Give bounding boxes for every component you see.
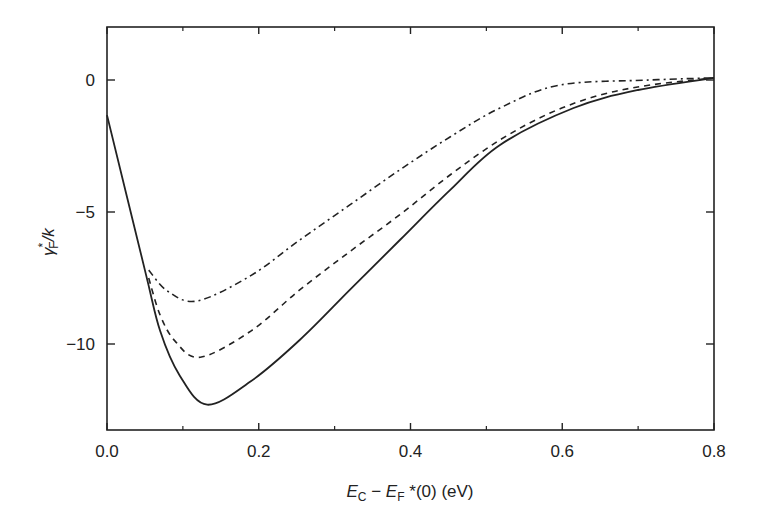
x-tick-label: 0.6	[550, 442, 574, 461]
y-tick-label: −5	[76, 203, 95, 222]
data-series	[107, 78, 714, 405]
y-tick-label: 0	[86, 71, 95, 90]
series-solid	[107, 78, 714, 405]
x-tick-label: 0.2	[247, 442, 271, 461]
series-dashed	[149, 78, 714, 358]
y-tick-label: −10	[66, 335, 95, 354]
y-axis-ticks: 0−5−10	[66, 71, 714, 354]
x-axis-label: EC − EF *(0) (eV)	[346, 482, 473, 504]
x-tick-label: 0.4	[399, 442, 423, 461]
x-tick-label: 0.8	[702, 442, 726, 461]
y-axis-label: γ*F/k	[36, 227, 61, 256]
chart: 0.00.20.40.60.8 0−5−10 EC − EF *(0) (eV)…	[0, 0, 760, 517]
x-tick-label: 0.0	[95, 442, 119, 461]
